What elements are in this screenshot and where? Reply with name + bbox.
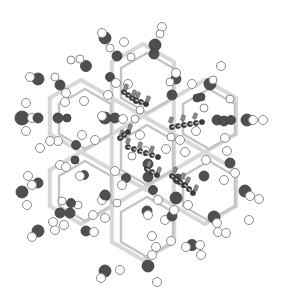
framework-atom-dark bbox=[142, 260, 154, 272]
framework-atom-dark bbox=[225, 158, 235, 168]
guest-atom-light bbox=[192, 113, 197, 120]
guest-atom-light bbox=[156, 167, 161, 174]
framework-atom-light bbox=[221, 134, 230, 143]
guest-atom-dark bbox=[190, 190, 195, 195]
framework-atom-light bbox=[131, 115, 139, 123]
framework-atom-dark bbox=[197, 93, 205, 101]
framework-atom-light bbox=[118, 181, 127, 190]
framework-atom-light bbox=[222, 229, 231, 238]
framework-atom-light bbox=[104, 91, 113, 100]
framework-atom-light bbox=[188, 80, 197, 89]
framework-atom-dark bbox=[16, 186, 28, 198]
framework-atom-dark bbox=[167, 90, 177, 100]
framework-atom-light bbox=[51, 73, 59, 81]
framework-atom-light bbox=[90, 228, 99, 237]
guest-atom-light bbox=[145, 96, 150, 103]
framework-atom-light bbox=[80, 97, 89, 106]
framework-atom-light bbox=[111, 167, 120, 176]
framework-atom-light bbox=[26, 73, 35, 82]
framework-atom-light bbox=[106, 44, 114, 52]
framework-bond bbox=[147, 98, 173, 113]
framework-atom-light bbox=[116, 266, 125, 275]
framework-atom-dark bbox=[199, 171, 209, 181]
framework-atom-light bbox=[144, 211, 153, 220]
framework-atom-light bbox=[200, 104, 208, 112]
guest-atom-light bbox=[180, 115, 185, 122]
framework-atom-light bbox=[197, 251, 206, 260]
framework-atom-light bbox=[128, 152, 136, 160]
framework-atom-light bbox=[181, 148, 190, 157]
guest-atom-dark bbox=[155, 154, 160, 159]
framework-atom-light bbox=[120, 38, 129, 47]
framework-atom-light bbox=[209, 76, 217, 84]
framework-atom-light bbox=[67, 56, 75, 64]
framework-atom-light bbox=[112, 79, 121, 88]
framework-atom-light bbox=[249, 116, 258, 125]
framework-atom-dark bbox=[149, 186, 158, 195]
framework-atom-light bbox=[76, 172, 85, 181]
framework-atom-light bbox=[97, 274, 106, 283]
framework-atom-light bbox=[62, 163, 71, 172]
framework-atom-light bbox=[113, 199, 121, 207]
framework-atom-light bbox=[22, 99, 31, 108]
framework-atom-light bbox=[255, 195, 264, 204]
framework-atom-dark bbox=[71, 156, 79, 164]
framework-atom-light bbox=[36, 144, 45, 153]
framework-atom-light bbox=[162, 145, 171, 154]
framework-atom-light bbox=[152, 243, 161, 252]
framework-atom-light bbox=[101, 214, 110, 223]
framework-atom-light bbox=[28, 233, 37, 242]
framework-atom-light bbox=[182, 243, 191, 252]
framework-atom-light bbox=[154, 196, 163, 205]
framework-atom-light bbox=[119, 115, 128, 124]
framework-atom-dark bbox=[63, 114, 71, 122]
framework-atom-light bbox=[127, 53, 135, 61]
framework-atom-dark bbox=[112, 51, 122, 61]
framework-atom-light bbox=[231, 169, 240, 178]
guest-atom-dark bbox=[199, 119, 204, 124]
framework-atom-light bbox=[60, 221, 69, 230]
framework-atom-light bbox=[246, 192, 255, 201]
framework-atom-light bbox=[153, 278, 162, 287]
framework-atom-dark bbox=[100, 190, 110, 200]
framework-atom-light bbox=[78, 131, 87, 140]
guest-atom-light bbox=[149, 146, 154, 153]
framework-atom-dark bbox=[53, 113, 63, 123]
framework-atom-light bbox=[58, 197, 66, 205]
framework-atom-light bbox=[172, 69, 181, 78]
framework-atom-light bbox=[156, 30, 164, 38]
framework-atom-light bbox=[62, 89, 71, 98]
framework-atom-light bbox=[136, 106, 144, 114]
framework-atom-dark bbox=[55, 208, 65, 218]
framework-atom-light bbox=[76, 55, 84, 63]
framework-atom-light bbox=[136, 131, 145, 140]
framework-atom-light bbox=[23, 201, 32, 210]
framework-atom-light bbox=[89, 211, 98, 220]
framework-atom-light bbox=[245, 216, 254, 225]
framework-atom-light bbox=[61, 98, 70, 107]
framework-atom-light bbox=[223, 147, 232, 156]
molecular-structure-figure bbox=[0, 0, 286, 302]
framework-atom-dark bbox=[15, 111, 29, 125]
framework-atom-light bbox=[202, 156, 211, 165]
molecular-structure-svg bbox=[0, 0, 286, 302]
framework-atom-light bbox=[213, 219, 222, 228]
framework-atom-light bbox=[170, 206, 179, 215]
framework-atom-dark bbox=[72, 141, 81, 150]
framework-atom-light bbox=[24, 172, 33, 181]
framework-atom-dark bbox=[170, 192, 182, 204]
framework-atom-dark bbox=[67, 199, 76, 208]
framework-atom-light bbox=[220, 176, 229, 185]
framework-atom-light bbox=[192, 127, 201, 136]
framework-atom-light bbox=[46, 137, 55, 146]
framework-atom-light bbox=[167, 133, 175, 141]
framework-atom-light bbox=[176, 136, 185, 145]
framework-atom-light bbox=[259, 116, 268, 125]
framework-atom-dark bbox=[65, 208, 75, 218]
framework-atom-light bbox=[226, 95, 234, 103]
framework-atom-light bbox=[91, 136, 100, 145]
framework-atom-light bbox=[167, 237, 176, 246]
atom-layer bbox=[15, 23, 268, 287]
framework-atom-dark bbox=[33, 113, 43, 123]
framework-atom-light bbox=[28, 181, 37, 190]
